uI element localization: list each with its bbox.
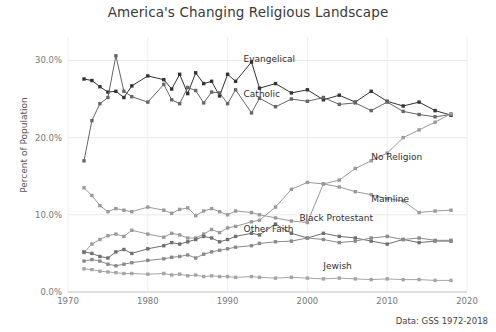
data-point (122, 96, 125, 99)
data-point (433, 121, 436, 124)
data-point (354, 190, 357, 193)
data-point (130, 272, 133, 275)
data-point (338, 185, 341, 188)
data-point (170, 273, 173, 276)
data-point (162, 78, 165, 81)
data-point (210, 90, 213, 93)
data-point (114, 232, 117, 235)
data-point (417, 128, 420, 131)
data-point (402, 238, 405, 241)
x-axis-tick: 2000 (287, 296, 327, 306)
data-point (417, 241, 420, 244)
data-point (218, 249, 221, 252)
data-point (449, 279, 452, 282)
data-point (178, 73, 181, 76)
data-point (130, 210, 133, 213)
data-point (178, 102, 181, 105)
data-point (250, 275, 253, 278)
data-point (210, 80, 213, 83)
data-point (122, 209, 125, 212)
data-point (82, 259, 85, 262)
data-point (202, 209, 205, 212)
data-point (218, 91, 221, 94)
plot-area (0, 0, 496, 332)
data-point (114, 207, 117, 210)
data-point (338, 103, 341, 106)
data-point (82, 159, 85, 162)
data-point (274, 240, 277, 243)
data-point (170, 98, 173, 101)
data-point (290, 91, 293, 94)
data-point (234, 80, 237, 83)
data-point (170, 241, 173, 244)
data-point (250, 220, 253, 223)
data-point (106, 210, 109, 213)
data-point (202, 101, 205, 104)
data-point (338, 241, 341, 244)
chart-container: America's Changing Religious Landscape P… (0, 0, 496, 332)
data-point (162, 209, 165, 212)
data-point (186, 274, 189, 277)
data-point (234, 276, 237, 279)
source-note: Data: GSS 1972-2018 (396, 316, 488, 326)
data-point (210, 228, 213, 231)
data-point (162, 272, 165, 275)
data-point (322, 277, 325, 280)
data-point (82, 267, 85, 270)
data-point (186, 92, 189, 95)
data-point (162, 83, 165, 86)
x-axis-tick: 1970 (48, 296, 88, 306)
data-point (290, 97, 293, 100)
data-point (226, 73, 229, 76)
data-point (306, 88, 309, 91)
data-point (98, 204, 101, 207)
data-point (114, 250, 117, 253)
data-point (194, 89, 197, 92)
data-point (122, 263, 125, 266)
x-axis-tick: 2020 (447, 296, 487, 306)
data-point (170, 232, 173, 235)
data-point (106, 256, 109, 259)
y-axis-tick: 20.0% (22, 133, 62, 143)
data-point (306, 236, 309, 239)
data-point (322, 96, 325, 99)
data-point (218, 240, 221, 243)
data-point (146, 232, 149, 235)
data-point (322, 238, 325, 241)
data-point (258, 213, 261, 216)
data-point (354, 167, 357, 170)
data-point (98, 270, 101, 273)
data-point (202, 235, 205, 238)
data-point (274, 205, 277, 208)
data-point (90, 119, 93, 122)
data-point (186, 253, 189, 256)
data-point (402, 136, 405, 139)
data-point (90, 252, 93, 255)
data-point (226, 226, 229, 229)
data-point (402, 278, 405, 281)
data-point (170, 87, 173, 90)
data-point (90, 268, 93, 271)
data-point (146, 205, 149, 208)
data-point (417, 113, 420, 116)
data-point (146, 74, 149, 77)
data-point (354, 277, 357, 280)
data-point (98, 259, 101, 262)
data-point (226, 247, 229, 250)
data-point (354, 101, 357, 104)
series-label-jewish: Jewish (323, 261, 351, 271)
data-point (338, 276, 341, 279)
data-point (210, 236, 213, 239)
data-point (130, 229, 133, 232)
data-point (194, 214, 197, 217)
data-point (122, 235, 125, 238)
data-point (178, 273, 181, 276)
data-point (178, 255, 181, 258)
data-point (433, 279, 436, 282)
data-point (370, 278, 373, 281)
data-point (226, 238, 229, 241)
data-point (386, 242, 389, 245)
series-label-mainline: Mainline (371, 194, 409, 204)
data-point (274, 105, 277, 108)
data-point (98, 238, 101, 241)
